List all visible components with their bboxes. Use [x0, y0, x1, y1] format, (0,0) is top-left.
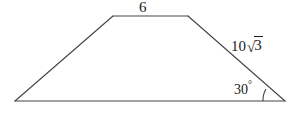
- angle-measure-label: 30°: [234, 83, 252, 97]
- radicand-value: 3: [254, 36, 263, 53]
- top-side-length-label: 6: [139, 0, 147, 15]
- square-root-icon: √3: [246, 39, 263, 54]
- right-side-coefficient: 10: [231, 38, 246, 54]
- geometry-figure: 6 10√3 30°: [0, 0, 296, 115]
- right-side-length-label: 10√3: [231, 39, 263, 54]
- angle-arc-30-degrees: [263, 89, 266, 101]
- trapezoid-drawing: [0, 0, 296, 115]
- angle-value: 30: [234, 82, 248, 97]
- left-slant-side-line: [15, 16, 113, 101]
- degree-symbol: °: [248, 79, 252, 90]
